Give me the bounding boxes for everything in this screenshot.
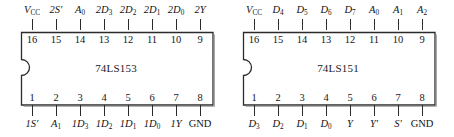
pin-stub bbox=[176, 19, 177, 30]
pin-stub bbox=[374, 105, 375, 116]
ic-pinout-figure: 74LS15316VCC152S′14A0132D3122D2112D1102D… bbox=[0, 0, 454, 137]
pin-number: 14 bbox=[69, 35, 91, 46]
pin-stub bbox=[80, 105, 81, 116]
pin-stub bbox=[56, 19, 57, 30]
pin-number: 1 bbox=[21, 93, 43, 104]
pin-stub bbox=[278, 105, 279, 116]
pin-number: 8 bbox=[411, 93, 433, 104]
pin-stub bbox=[398, 19, 399, 30]
pin-stub bbox=[326, 105, 327, 116]
pin-stub bbox=[278, 19, 279, 30]
pin-number: 15 bbox=[45, 35, 67, 46]
pin-number: 2 bbox=[45, 93, 67, 104]
pin-number: 3 bbox=[69, 93, 91, 104]
pin-number: 1 bbox=[243, 93, 265, 104]
pin-number: 13 bbox=[315, 35, 337, 46]
pin-stub bbox=[104, 19, 105, 30]
pin-number: 5 bbox=[117, 93, 139, 104]
pin-stub bbox=[254, 105, 255, 116]
pin-stub bbox=[128, 105, 129, 116]
pin-stub bbox=[398, 105, 399, 116]
pin-number: 16 bbox=[21, 35, 43, 46]
pin-number: 9 bbox=[189, 35, 211, 46]
pin-stub bbox=[56, 105, 57, 116]
pin-stub bbox=[254, 19, 255, 30]
pin-stub bbox=[80, 19, 81, 30]
pin-number: 5 bbox=[339, 93, 361, 104]
pin-number: 14 bbox=[291, 35, 313, 46]
pin-number: 11 bbox=[363, 35, 385, 46]
pin-stub bbox=[350, 105, 351, 116]
pin-stub bbox=[32, 19, 33, 30]
pin-stub bbox=[104, 105, 105, 116]
pin-number: 12 bbox=[339, 35, 361, 46]
pin-stub bbox=[152, 19, 153, 30]
chip-74ls153: 74LS15316VCC152S′14A0132D3122D2112D1102D… bbox=[0, 0, 227, 137]
pin-stub bbox=[350, 19, 351, 30]
chip-part-number: 74LS153 bbox=[19, 62, 213, 74]
pin-stub bbox=[374, 19, 375, 30]
pin-stub bbox=[302, 19, 303, 30]
pin-number: 3 bbox=[291, 93, 313, 104]
pin-number: 4 bbox=[315, 93, 337, 104]
pin-stub bbox=[422, 105, 423, 116]
pin-stub bbox=[200, 19, 201, 30]
pin-stub bbox=[32, 105, 33, 116]
pin-label: GND bbox=[177, 119, 223, 130]
pin-stub bbox=[302, 105, 303, 116]
pin-number: 6 bbox=[141, 93, 163, 104]
pin-number: 16 bbox=[243, 35, 265, 46]
pin-stub bbox=[152, 105, 153, 116]
pin-number: 10 bbox=[387, 35, 409, 46]
pin-stub bbox=[176, 105, 177, 116]
chip-part-number: 74LS151 bbox=[241, 62, 435, 74]
pin-number: 13 bbox=[93, 35, 115, 46]
pin-number: 4 bbox=[93, 93, 115, 104]
pin-number: 7 bbox=[165, 93, 187, 104]
pin-number: 15 bbox=[267, 35, 289, 46]
pin-number: 6 bbox=[363, 93, 385, 104]
pin-stub bbox=[200, 105, 201, 116]
pin-stub bbox=[422, 19, 423, 30]
pin-number: 12 bbox=[117, 35, 139, 46]
pin-number: 2 bbox=[267, 93, 289, 104]
pin-number: 8 bbox=[189, 93, 211, 104]
pin-number: 11 bbox=[141, 35, 163, 46]
pin-number: 10 bbox=[165, 35, 187, 46]
pin-label: 2Y bbox=[177, 5, 223, 16]
pin-stub bbox=[326, 19, 327, 30]
pin-number: 7 bbox=[387, 93, 409, 104]
pin-label: A2 bbox=[399, 5, 445, 16]
pin-stub bbox=[128, 19, 129, 30]
pin-number: 9 bbox=[411, 35, 433, 46]
chip-74ls151: 74LS15116VCC15D414D513D612D711A010A19A21… bbox=[227, 0, 454, 137]
pin-label: GND bbox=[399, 119, 445, 130]
